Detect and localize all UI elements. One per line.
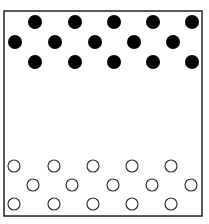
open-particles-group <box>8 160 197 210</box>
open-particle <box>126 198 138 210</box>
filled-particle <box>185 15 199 29</box>
filled-particle <box>166 35 180 49</box>
filled-particles-group <box>8 15 199 69</box>
filled-particle <box>8 35 22 49</box>
open-particle <box>107 179 119 191</box>
open-particle <box>126 160 138 172</box>
filled-particle <box>146 15 160 29</box>
open-particle <box>165 160 177 172</box>
filled-particle <box>28 55 42 69</box>
open-particle <box>8 160 20 172</box>
open-particle <box>165 198 177 210</box>
filled-particle <box>68 55 82 69</box>
filled-particle <box>127 35 141 49</box>
filled-particle <box>107 15 121 29</box>
open-particle <box>48 160 60 172</box>
filled-particle <box>107 55 121 69</box>
particle-diagram <box>0 0 209 224</box>
open-particle <box>87 160 99 172</box>
filled-particle <box>68 15 82 29</box>
filled-particle <box>48 35 62 49</box>
open-particle <box>8 198 20 210</box>
open-particle <box>185 179 197 191</box>
filled-particle <box>185 55 199 69</box>
filled-particle <box>88 35 102 49</box>
open-particle <box>87 198 99 210</box>
filled-particle <box>146 55 160 69</box>
open-particle <box>27 179 39 191</box>
open-particle <box>48 198 60 210</box>
filled-particle <box>28 15 42 29</box>
open-particle <box>146 179 158 191</box>
open-particle <box>66 179 78 191</box>
